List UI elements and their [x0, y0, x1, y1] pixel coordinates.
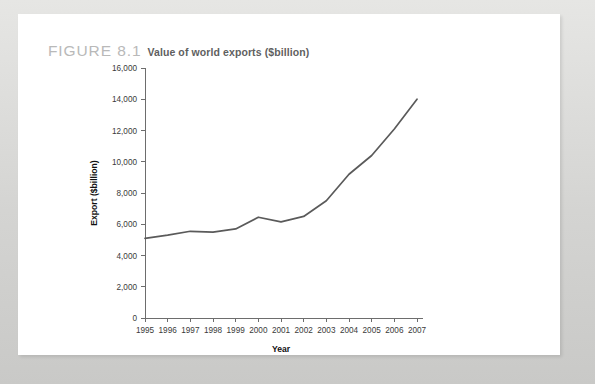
x-tick-label: 2000: [249, 326, 268, 335]
x-tick-label: 2004: [340, 326, 359, 335]
x-tick-label: 2005: [363, 326, 382, 335]
y-tick-label: 6,000: [117, 220, 138, 229]
x-axis-ticks: 1995199619971998199920002001200220032004…: [136, 318, 427, 335]
x-tick-label: 2002: [295, 326, 314, 335]
line-chart: 02,0004,0006,0008,00010,00012,00014,0001…: [18, 14, 560, 355]
x-tick-label: 1995: [136, 326, 155, 335]
x-tick-label: 2001: [272, 326, 291, 335]
figure-card: FIGURE 8.1Value of world exports ($billi…: [18, 14, 560, 355]
y-tick-label: 12,000: [112, 127, 137, 136]
y-tick-label: 16,000: [112, 64, 137, 73]
y-tick-label: 2,000: [117, 283, 138, 292]
data-series-line: [145, 99, 417, 238]
x-tick-label: 2006: [385, 326, 404, 335]
x-tick-label: 2007: [408, 326, 427, 335]
x-tick-label: 2003: [317, 326, 336, 335]
x-tick-label: 1996: [159, 326, 178, 335]
y-axis-title: Export ($billion): [89, 160, 99, 226]
x-tick-label: 1999: [227, 326, 246, 335]
y-tick-label: 0: [132, 314, 137, 323]
x-axis-title: Year: [272, 344, 291, 354]
x-tick-label: 1997: [181, 326, 200, 335]
y-tick-label: 8,000: [117, 189, 138, 198]
y-tick-label: 4,000: [117, 252, 138, 261]
y-tick-label: 10,000: [112, 158, 137, 167]
x-tick-label: 1998: [204, 326, 223, 335]
y-tick-label: 14,000: [112, 95, 137, 104]
y-axis-ticks: 02,0004,0006,0008,00010,00012,00014,0001…: [112, 64, 145, 323]
chart-svg: 02,0004,0006,0008,00010,00012,00014,0001…: [18, 14, 560, 355]
page-background: FIGURE 8.1Value of world exports ($billi…: [0, 0, 595, 384]
